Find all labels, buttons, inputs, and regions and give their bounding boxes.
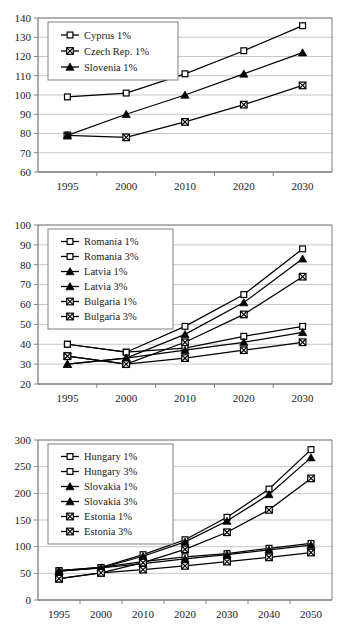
data-point bbox=[123, 90, 129, 96]
data-point bbox=[299, 82, 306, 89]
y-tick-label: 50 bbox=[20, 567, 32, 579]
marker-triangle bbox=[299, 49, 307, 56]
data-point bbox=[300, 23, 306, 29]
x-tick-label: 1995 bbox=[48, 608, 71, 620]
marker-square bbox=[67, 454, 73, 460]
y-tick-label: 60 bbox=[20, 298, 32, 310]
data-point bbox=[140, 566, 147, 573]
marker-square bbox=[300, 23, 306, 29]
legend-marker-crossed-square bbox=[67, 48, 74, 55]
marker-square bbox=[182, 71, 188, 77]
y-tick-label: 120 bbox=[15, 50, 32, 62]
legend-entry-label: Romania 1% bbox=[84, 236, 139, 247]
data-point bbox=[224, 529, 231, 536]
x-tick-label: 2010 bbox=[174, 392, 197, 404]
y-tick-label: 80 bbox=[20, 259, 32, 271]
y-tick-label: 70 bbox=[20, 147, 32, 159]
legend-entry-label: Slovenia 1% bbox=[84, 62, 138, 73]
data-point bbox=[299, 273, 306, 280]
legend-entry-label: Latvia 3% bbox=[84, 281, 128, 292]
legend-entry-label: Hungary 1% bbox=[84, 451, 138, 462]
data-point bbox=[64, 353, 71, 360]
y-tick-label: 130 bbox=[15, 31, 32, 43]
marker-square bbox=[308, 447, 314, 453]
data-point bbox=[182, 119, 189, 126]
legend-entry-label: Hungary 3% bbox=[84, 466, 138, 477]
legend-marker-open-square bbox=[67, 254, 73, 260]
marker-square bbox=[65, 341, 71, 347]
x-tick-label: 2000 bbox=[115, 392, 138, 404]
y-tick-label: 20 bbox=[20, 378, 32, 390]
x-tick-label: 2020 bbox=[233, 180, 256, 192]
marker-square bbox=[67, 239, 73, 245]
data-point bbox=[65, 341, 71, 347]
marker-triangle bbox=[181, 330, 189, 337]
legend-marker-crossed-square bbox=[67, 313, 74, 320]
legend-marker-open-square bbox=[67, 454, 73, 460]
y-tick-label: 90 bbox=[20, 108, 32, 120]
data-point bbox=[308, 447, 314, 453]
chart-2: 203040506070809010019952000201020202030R… bbox=[0, 200, 350, 418]
data-point bbox=[308, 475, 315, 482]
data-point bbox=[224, 558, 231, 565]
legend-marker-open-square bbox=[67, 239, 73, 245]
data-point bbox=[182, 563, 189, 570]
y-tick-label: 40 bbox=[20, 338, 32, 350]
data-point bbox=[182, 323, 188, 329]
legend-entry-label: Latvia 1% bbox=[84, 266, 128, 277]
data-point bbox=[181, 330, 189, 337]
marker-triangle bbox=[299, 255, 307, 262]
x-tick-label: 2050 bbox=[300, 608, 323, 620]
marker-triangle bbox=[240, 70, 248, 77]
data-point bbox=[65, 94, 71, 100]
y-tick-label: 30 bbox=[20, 358, 32, 370]
marker-square bbox=[182, 323, 188, 329]
data-point bbox=[123, 134, 130, 141]
chart-3-container: 0501001502002503001995200020102020203020… bbox=[0, 418, 350, 636]
x-tick-label: 2020 bbox=[233, 392, 256, 404]
marker-square bbox=[241, 292, 247, 298]
legend-marker-crossed-square bbox=[67, 298, 74, 305]
y-tick-label: 150 bbox=[15, 514, 32, 526]
data-point bbox=[308, 549, 315, 556]
marker-square bbox=[300, 246, 306, 252]
legend: Cyprus 1%Czech Rep. 1%Slovenia 1% bbox=[48, 22, 178, 80]
x-tick-label: 2030 bbox=[292, 180, 315, 192]
data-point bbox=[241, 101, 248, 108]
data-point bbox=[300, 246, 306, 252]
x-tick-label: 2010 bbox=[174, 180, 197, 192]
x-tick-label: 2020 bbox=[174, 608, 197, 620]
x-tick-label: 2030 bbox=[292, 392, 315, 404]
y-tick-label: 140 bbox=[15, 12, 32, 24]
x-tick-label: 2030 bbox=[216, 608, 239, 620]
data-point bbox=[56, 575, 63, 582]
data-point bbox=[140, 559, 147, 566]
y-tick-label: 0 bbox=[26, 594, 32, 606]
x-tick-label: 2040 bbox=[258, 608, 281, 620]
data-point bbox=[299, 339, 306, 346]
y-tick-label: 50 bbox=[20, 318, 32, 330]
marker-square bbox=[67, 32, 73, 38]
y-tick-label: 90 bbox=[20, 239, 32, 251]
data-point bbox=[241, 311, 248, 318]
data-point bbox=[241, 347, 248, 354]
marker-square bbox=[123, 90, 129, 96]
legend-entry-label: Bulgaria 3% bbox=[84, 311, 137, 322]
chart-1: 6070809010011012013014019952000201020202… bbox=[0, 0, 350, 200]
data-point bbox=[266, 554, 273, 561]
legend-entry-label: Slovakia 1% bbox=[84, 481, 138, 492]
data-point bbox=[123, 361, 130, 368]
y-tick-label: 60 bbox=[20, 166, 32, 178]
figure-page: 6070809010011012013014019952000201020202… bbox=[0, 0, 350, 636]
chart-2-container: 203040506070809010019952000201020202030R… bbox=[0, 200, 350, 418]
legend-entry-label: Cyprus 1% bbox=[84, 30, 131, 41]
chart-1-container: 6070809010011012013014019952000201020202… bbox=[0, 0, 350, 200]
data-point bbox=[98, 570, 105, 577]
y-tick-label: 110 bbox=[15, 70, 32, 82]
legend-entry-label: Romania 3% bbox=[84, 251, 139, 262]
legend-entry-label: Czech Rep. 1% bbox=[84, 46, 149, 57]
y-tick-label: 200 bbox=[15, 487, 32, 499]
y-tick-label: 80 bbox=[20, 127, 32, 139]
data-point bbox=[182, 71, 188, 77]
data-point bbox=[299, 255, 307, 262]
